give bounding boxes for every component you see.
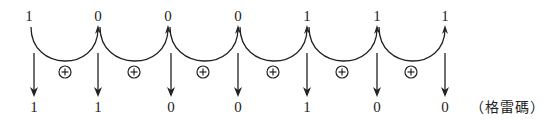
gray-bit: 0 (234, 100, 242, 115)
gray-code-diagram: 1 0 0 0 1 1 1 1 1 0 0 1 0 0 （格雷碼） (0, 0, 554, 122)
gray-code-label: （格雷碼） (470, 100, 545, 114)
xor-icon (197, 66, 209, 78)
xor-icon (405, 66, 417, 78)
down-arrows (30, 53, 449, 97)
binary-bit: 1 (441, 9, 449, 24)
binary-bit: 1 (373, 9, 381, 24)
arc-4 (309, 27, 377, 61)
binary-bit: 1 (303, 9, 311, 24)
xor-icon (128, 66, 140, 78)
arc-arrowheads (95, 25, 448, 34)
arc-2 (170, 27, 238, 61)
gray-bit: 1 (94, 100, 102, 115)
arc-3 (240, 27, 307, 61)
gray-bit: 1 (303, 100, 311, 115)
binary-bit: 0 (234, 9, 242, 24)
binary-bit: 0 (164, 9, 172, 24)
arc-1 (100, 27, 168, 61)
gray-bit: 0 (373, 100, 381, 115)
binary-bit: 1 (25, 9, 33, 24)
gray-bit: 0 (167, 100, 175, 115)
xor-icon (267, 66, 279, 78)
arc-0 (31, 27, 98, 61)
gray-bit: 1 (30, 100, 38, 115)
gray-bit: 0 (441, 100, 449, 115)
binary-bit: 0 (94, 9, 102, 24)
arc-5 (379, 27, 445, 61)
xor-icon (59, 66, 71, 78)
xor-icon (336, 66, 348, 78)
